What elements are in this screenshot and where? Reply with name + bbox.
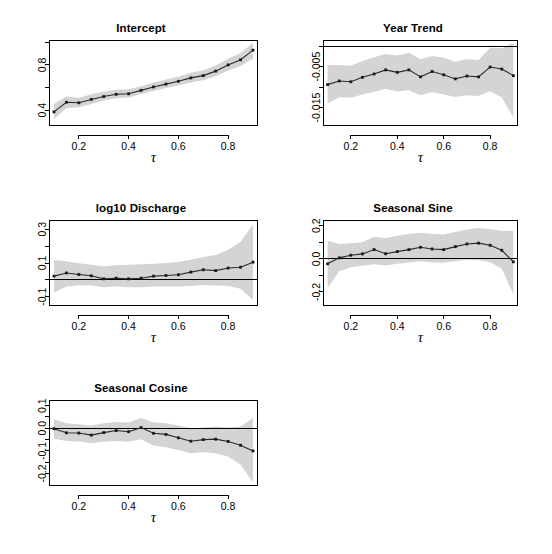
y-axis-tick-label: 0.0 [36,421,48,436]
x-axis-tick-label: 0.2 [344,320,359,332]
data-point [477,242,480,245]
data-point [165,274,168,277]
data-point [90,98,93,101]
data-point [53,110,56,113]
x-axis-tick-label: 0.8 [221,320,236,332]
y-axis-tick-label: -0.2 [36,464,48,482]
x-axis-tick-label: 0.4 [390,140,405,152]
data-point [373,73,376,76]
panel-seasonal-sine: Seasonal Sine0.20.0-0.20.20.40.60.8τ [288,202,538,352]
data-point [227,63,230,66]
data-point [65,101,68,104]
x-axis-tick-label: 0.2 [72,500,87,512]
x-axis-label-tau: τ [151,149,157,165]
data-point [127,430,130,433]
plot-area: 0.20.0-0.20.20.40.60.8τ [288,202,538,352]
data-point [239,266,242,269]
data-point [361,253,364,256]
data-point [214,269,217,272]
data-point [326,83,329,86]
data-point [177,273,180,276]
plot-area: 0.40.80.20.40.60.8τ [16,22,266,172]
data-point [165,83,168,86]
x-axis-tick-label: 0.4 [121,140,136,152]
data-point [431,70,434,73]
data-point [349,254,352,257]
data-point [477,75,480,78]
data-point [373,248,376,251]
confidence-band [54,418,253,483]
y-axis-tick-label: 0.2 [310,218,322,233]
data-point [140,277,143,280]
panel-year-trend: Year Trend-0.005-0.0150.20.40.60.8τ [288,22,538,172]
y-axis-tick-label: 0.8 [36,57,48,72]
data-point [454,78,457,81]
data-point [127,277,130,280]
y-axis-tick-label: 0.1 [36,398,48,413]
data-point [202,74,205,77]
data-point [102,277,105,280]
data-point [252,49,255,52]
data-point [90,274,93,277]
confidence-band [54,43,253,119]
data-point [102,95,105,98]
x-axis-label-tau: τ [418,329,424,345]
data-point [202,268,205,271]
data-point [361,76,364,79]
plot-area: 0.30.1-0.10.20.40.60.8τ [16,202,266,352]
x-axis-label-tau: τ [151,509,157,525]
data-point [214,438,217,441]
data-point [177,436,180,439]
data-point [227,267,230,270]
x-axis-tick-label: 0.4 [121,500,136,512]
data-point [252,261,255,264]
quantile-regression-figure: Intercept0.40.80.20.40.60.8τYear Trend-0… [0,0,552,554]
data-point [152,432,155,435]
x-axis-tick-label: 0.8 [221,500,236,512]
data-point [512,260,515,263]
x-axis-tick-label: 0.8 [221,140,236,152]
data-point [338,256,341,259]
data-point [53,427,56,430]
data-point [239,444,242,447]
data-point [189,271,192,274]
data-point [140,89,143,92]
data-point [77,432,80,435]
panel-title: Year Trend [288,22,538,34]
plot-area: 0.10.0-0.1-0.20.20.40.60.8τ [16,382,266,532]
data-point [419,75,422,78]
data-point [407,248,410,251]
data-point [384,252,387,255]
data-point [252,450,255,453]
x-axis-tick-label: 0.2 [344,140,359,152]
panel-intercept: Intercept0.40.80.20.40.60.8τ [16,22,266,172]
data-point [102,431,105,434]
data-point [431,248,434,251]
data-point [466,243,469,246]
y-axis-tick-label: -0.015 [310,93,322,123]
data-point [140,426,143,429]
data-point [53,275,56,278]
y-axis-tick-label: 0.4 [36,103,48,118]
confidence-band [54,224,253,300]
data-point [349,80,352,83]
data-point [65,272,68,275]
panel-log10-discharge: log10 Discharge0.30.1-0.10.20.40.60.8τ [16,202,266,352]
data-point [442,73,445,76]
data-point [338,80,341,83]
x-axis-tick-label: 0.2 [72,320,87,332]
data-point [77,273,80,276]
data-point [127,92,130,95]
data-point [326,262,329,265]
data-point [189,77,192,80]
data-point [384,69,387,72]
data-point [214,70,217,73]
x-axis-tick-label: 0.6 [436,320,451,332]
y-axis-tick-label: -0.1 [36,442,48,460]
data-point [152,86,155,89]
data-point [65,431,68,434]
data-point [115,429,118,432]
data-point [419,246,422,249]
data-point [202,438,205,441]
data-point [396,250,399,253]
